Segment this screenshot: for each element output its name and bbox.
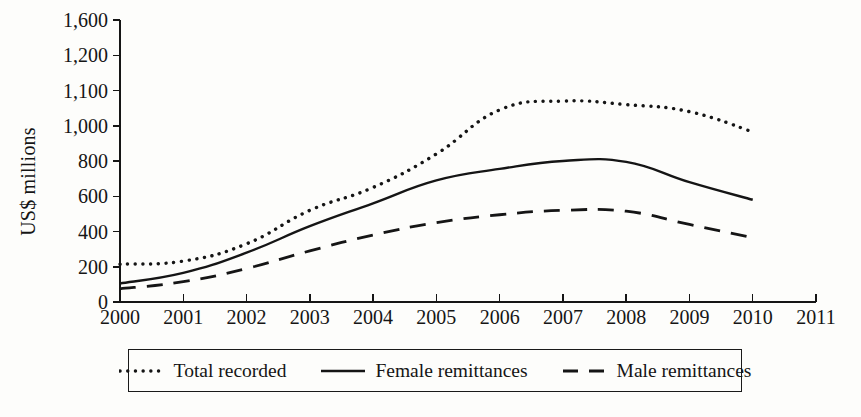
series-line-male-remittances (120, 209, 753, 288)
data-series (120, 101, 753, 289)
legend-swatch-dotted-icon (119, 365, 165, 377)
chart-legend: Total recordedFemale remittancesMale rem… (128, 349, 742, 392)
legend-swatch-dashed-icon (562, 365, 608, 377)
series-line-female-remittances (120, 159, 753, 283)
legend-item-label: Male remittances (617, 360, 752, 382)
chart-figure: US$ millions 1,6001,2001,1001,0008006004… (0, 0, 861, 417)
axes (113, 20, 816, 302)
legend-item[interactable]: Total recorded (119, 360, 287, 382)
legend-item[interactable]: Female remittances (320, 360, 527, 382)
series-line-total-recorded (120, 101, 753, 264)
legend-swatch-solid-icon (320, 365, 366, 377)
legend-item-label: Total recorded (174, 360, 287, 382)
legend-item[interactable]: Male remittances (562, 360, 752, 382)
legend-item-label: Female remittances (375, 360, 527, 382)
